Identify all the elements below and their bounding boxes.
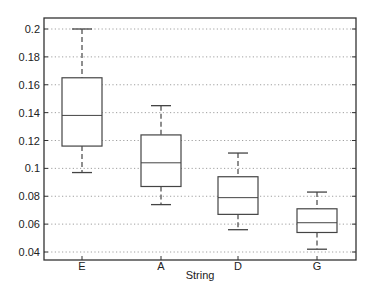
boxes	[62, 29, 337, 249]
iqr-box	[218, 177, 258, 215]
y-tick-label: 0.06	[19, 218, 40, 230]
iqr-box	[62, 78, 102, 146]
x-tick-label: A	[157, 260, 165, 272]
y-tick-label: 0.04	[19, 246, 40, 258]
y-tick-label: 0.12	[19, 135, 40, 147]
x-tick-label: D	[234, 260, 242, 272]
y-tick-label: 0.16	[19, 79, 40, 91]
boxplot-chart: 0.040.060.080.10.120.140.160.180.2 EADG …	[0, 0, 380, 301]
y-tick-label: 0.08	[19, 190, 40, 202]
box-D	[218, 153, 258, 230]
y-tick-label: 0.18	[19, 51, 40, 63]
x-tick-label: G	[313, 260, 322, 272]
x-tick-label: E	[78, 260, 85, 272]
iqr-box	[297, 209, 337, 233]
box-E	[62, 29, 102, 173]
y-tick-label: 0.1	[25, 162, 40, 174]
y-tick-label: 0.2	[25, 23, 40, 35]
box-G	[297, 192, 337, 249]
iqr-box	[141, 135, 181, 187]
box-A	[141, 106, 181, 205]
x-axis-label: String	[186, 269, 215, 281]
y-tick-label: 0.14	[19, 107, 40, 119]
